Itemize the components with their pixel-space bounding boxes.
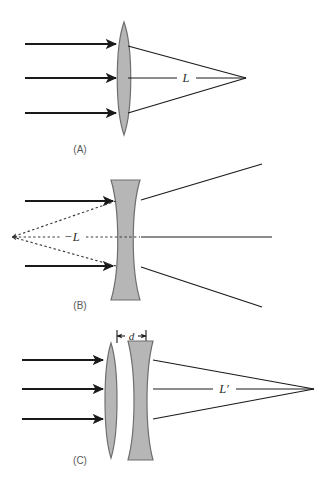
- panel-label-c: (C): [73, 455, 87, 466]
- focal-length-label-b: −L: [64, 230, 79, 244]
- focal-length-label-c: L′: [218, 382, 229, 396]
- panel-label-a: (A): [73, 144, 86, 155]
- lens-diagram-figure: L (A): [0, 0, 335, 491]
- converging-lens-c: [105, 343, 117, 458]
- focal-length-label-a: L: [182, 71, 190, 85]
- lens-diagram-canvas: L (A): [0, 0, 335, 491]
- panel-label-b: (B): [73, 300, 86, 311]
- lens-separation-label: d: [129, 330, 135, 342]
- figure-background: [0, 0, 335, 491]
